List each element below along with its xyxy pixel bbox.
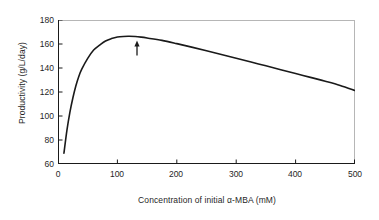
y-tick-label: 100 — [14, 112, 54, 121]
x-tick-label: 0 — [38, 170, 78, 179]
y-tick-label: 80 — [14, 136, 54, 145]
x-tick-label: 400 — [275, 170, 315, 179]
x-tick-label: 300 — [216, 170, 256, 179]
plot-area — [58, 20, 355, 164]
x-tick-label: 100 — [97, 170, 137, 179]
x-axis-title: Concentration of initial α-MBA (mM) — [58, 195, 356, 205]
x-tick-label: 500 — [335, 170, 375, 179]
y-tick-label: 60 — [14, 160, 54, 169]
chart-figure: Productivity (g/L/day) 180 160 140 120 1… — [0, 0, 379, 220]
plot-background — [58, 20, 355, 164]
y-tick-label: 180 — [14, 16, 54, 25]
x-tick-label: 200 — [156, 170, 196, 179]
y-tick-label: 120 — [14, 88, 54, 97]
y-tick-label: 160 — [14, 40, 54, 49]
y-tick-label: 140 — [14, 64, 54, 73]
plot-canvas — [58, 20, 355, 164]
